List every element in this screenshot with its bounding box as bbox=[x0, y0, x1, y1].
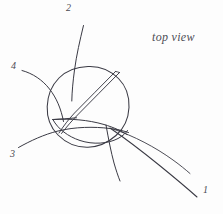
slot-end-cap bbox=[115, 71, 119, 72]
leader-line-3-tail bbox=[113, 129, 190, 174]
leader-line-4 bbox=[22, 71, 64, 122]
slot-edge-lower bbox=[59, 72, 116, 134]
label-1: 1 bbox=[203, 185, 208, 195]
label-4: 4 bbox=[11, 61, 16, 71]
sketch-figure: top view 1 2 3 4 bbox=[0, 0, 223, 214]
leader-line-1 bbox=[110, 128, 197, 197]
slot-edge-upper bbox=[62, 73, 120, 134]
label-3: 3 bbox=[10, 149, 15, 159]
caption-top-view: top view bbox=[152, 30, 195, 45]
label-2: 2 bbox=[66, 3, 71, 13]
leader-line-2 bbox=[72, 26, 84, 102]
